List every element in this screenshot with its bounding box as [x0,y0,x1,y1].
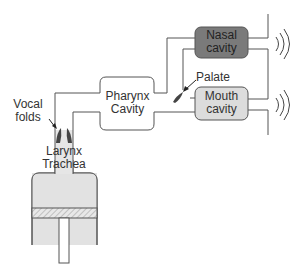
vocal-tract-diagram [0,0,306,275]
tube-pharynx-to-nasal-inner [183,49,195,90]
pharynx-label: Pharynx Cavity [100,90,155,116]
nasal-outlet [248,38,268,49]
nasal-label-line2: cavity [195,42,248,55]
piston-rod [59,218,69,263]
tube-pharynx-to-nasal-outer [154,38,195,93]
larynx-trachea-label: Larynx Trachea [38,145,90,171]
piston-hatch [32,208,97,218]
trachea-label: Trachea [38,158,90,171]
mouth-label: Mouth cavity [195,90,248,116]
vocal-folds-label: Vocal folds [6,98,50,124]
sound-wave-icon [276,90,290,120]
sound-wave-icon [276,29,290,59]
palate-pointer [186,80,196,89]
palate-shape [173,92,183,103]
nasal-label: Nasal cavity [195,29,248,55]
mouth-label-line2: cavity [195,103,248,116]
mouth-outlet [248,99,268,110]
palate-label: Palate [196,71,230,84]
vocal-folds-label-line2: folds [6,111,50,124]
pharynx-label-line2: Cavity [100,103,155,116]
